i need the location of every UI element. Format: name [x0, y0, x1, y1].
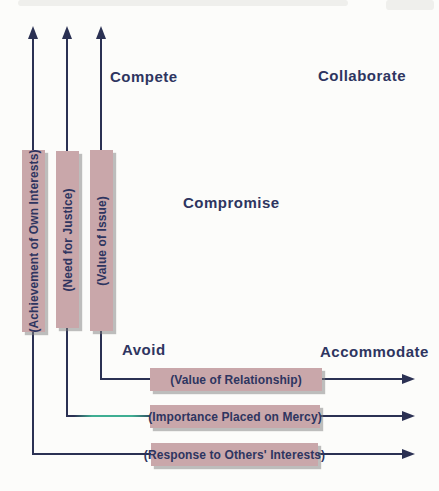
axis-label-box-mercy: (Importance Placed on Mercy)	[150, 405, 320, 428]
axis-label-relationship: (Value of Relationship)	[170, 373, 302, 387]
axis-label-box-own-interests: (Achievement of Own Interests)	[22, 150, 45, 332]
axis-label-box-relationship: (Value of Relationship)	[150, 368, 322, 391]
style-label-compromise: Compromise	[183, 194, 280, 211]
scan-artifact	[18, 0, 348, 6]
axis-label-issue: (Value of Issue)	[95, 196, 109, 286]
style-label-accommodate: Accommodate	[320, 343, 429, 360]
conflict-styles-diagram: (Achievement of Own Interests) (Need for…	[0, 0, 439, 491]
style-label-compete: Compete	[110, 68, 178, 85]
axis-label-mercy: (Importance Placed on Mercy)	[148, 410, 322, 424]
axis-label-justice: (Need for Justice)	[61, 188, 75, 291]
axis-label-box-justice: (Need for Justice)	[56, 151, 79, 328]
axis-label-box-issue: (Value of Issue)	[90, 150, 113, 331]
right-arrowhead-axis3-icon	[402, 374, 415, 384]
axis-label-box-others-interests: (Response to Others' Interests)	[151, 443, 318, 466]
scan-artifact	[386, 0, 434, 10]
right-arrowhead-axis1-icon	[402, 449, 415, 459]
style-label-avoid: Avoid	[122, 341, 166, 358]
axis-label-own-interests: (Achievement of Own Interests)	[27, 149, 41, 332]
axis-label-others-interests: (Response to Others' Interests)	[144, 448, 325, 462]
style-label-collaborate: Collaborate	[318, 67, 406, 84]
right-arrowhead-axis2-icon	[402, 411, 415, 421]
